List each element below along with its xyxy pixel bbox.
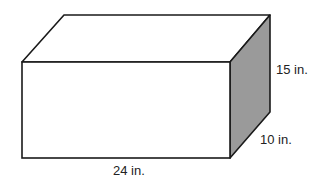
length-label: 24 in.	[113, 163, 145, 178]
height-label: 15 in.	[276, 62, 308, 77]
top-face	[22, 15, 270, 62]
prism-diagram: 15 in. 10 in. 24 in.	[0, 0, 322, 184]
width-label: 10 in.	[260, 132, 292, 147]
front-face	[22, 62, 230, 158]
